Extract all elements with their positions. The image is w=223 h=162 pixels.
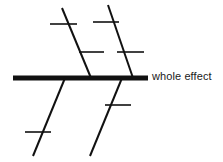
fishbone-diagram: whole effect	[0, 0, 223, 162]
effect-label: whole effect	[152, 70, 212, 83]
